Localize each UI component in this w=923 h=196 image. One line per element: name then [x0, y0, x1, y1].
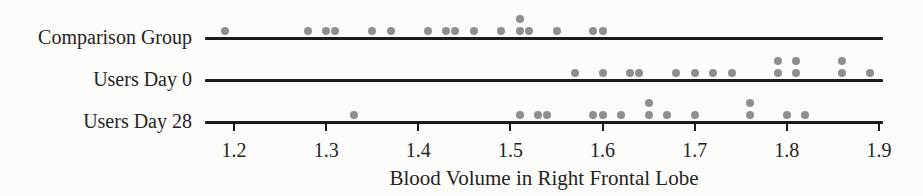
data-point-dot — [645, 99, 653, 107]
data-point-dot — [801, 111, 809, 119]
data-point-dot — [553, 27, 561, 35]
group-axis-line — [205, 79, 883, 82]
axis-tick — [509, 122, 511, 131]
data-point-dot — [783, 111, 791, 119]
data-point-dot — [525, 27, 533, 35]
data-point-dot — [516, 27, 524, 35]
data-point-dot — [866, 69, 874, 77]
data-point-dot — [599, 69, 607, 77]
data-point-dot — [774, 57, 782, 65]
axis-tick-label: 1.3 — [314, 140, 339, 160]
data-point-dot — [746, 111, 754, 119]
data-point-dot — [599, 111, 607, 119]
data-point-dot — [571, 69, 579, 77]
data-point-dot — [589, 111, 597, 119]
axis-tick-label: 1.7 — [682, 140, 707, 160]
x-axis-title: Blood Volume in Right Frontal Lobe — [390, 167, 699, 189]
data-point-dot — [838, 57, 846, 65]
group-label: Users Day 0 — [0, 69, 192, 89]
group-label: Comparison Group — [0, 27, 192, 47]
data-point-dot — [451, 27, 459, 35]
axis-tick — [602, 122, 604, 131]
data-point-dot — [543, 111, 551, 119]
data-point-dot — [516, 15, 524, 23]
axis-tick-label: 1.4 — [406, 140, 431, 160]
group-axis-line — [205, 37, 883, 40]
data-point-dot — [331, 27, 339, 35]
data-point-dot — [350, 111, 358, 119]
axis-tick-label: 1.6 — [590, 140, 615, 160]
axis-tick — [325, 122, 327, 131]
data-point-dot — [368, 27, 376, 35]
axis-tick-label: 1.5 — [498, 140, 523, 160]
data-point-dot — [746, 99, 754, 107]
axis-tick — [878, 122, 880, 131]
axis-tick-label: 1.9 — [867, 140, 892, 160]
data-point-dot — [774, 69, 782, 77]
data-point-dot — [691, 111, 699, 119]
data-point-dot — [304, 27, 312, 35]
data-point-dot — [534, 111, 542, 119]
data-point-dot — [221, 27, 229, 35]
data-point-dot — [387, 27, 395, 35]
group-label: Users Day 28 — [0, 111, 192, 131]
data-point-dot — [626, 69, 634, 77]
data-point-dot — [645, 111, 653, 119]
axis-tick — [786, 122, 788, 131]
data-point-dot — [728, 69, 736, 77]
data-point-dot — [792, 57, 800, 65]
data-point-dot — [672, 69, 680, 77]
axis-tick-label: 1.8 — [774, 140, 799, 160]
dot-plot-figure: Comparison GroupUsers Day 0Users Day 28 … — [0, 0, 923, 196]
data-point-dot — [322, 27, 330, 35]
data-point-dot — [497, 27, 505, 35]
data-point-dot — [470, 27, 478, 35]
data-point-dot — [589, 27, 597, 35]
data-point-dot — [663, 111, 671, 119]
axis-tick — [417, 122, 419, 131]
data-point-dot — [599, 27, 607, 35]
group-axis-line — [205, 121, 883, 124]
axis-tick-label: 1.2 — [222, 140, 247, 160]
axis-tick — [233, 122, 235, 131]
data-point-dot — [516, 111, 524, 119]
data-point-dot — [709, 69, 717, 77]
data-point-dot — [442, 27, 450, 35]
data-point-dot — [617, 111, 625, 119]
data-point-dot — [635, 69, 643, 77]
data-point-dot — [792, 69, 800, 77]
data-point-dot — [424, 27, 432, 35]
data-point-dot — [691, 69, 699, 77]
data-point-dot — [838, 69, 846, 77]
axis-tick — [694, 122, 696, 131]
